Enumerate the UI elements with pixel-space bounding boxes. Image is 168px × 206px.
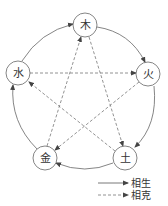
line-wood-earth — [89, 37, 123, 146]
legend: 相生 相克 — [98, 177, 151, 201]
node-metal: 金 — [33, 146, 57, 170]
line-metal-wood — [47, 37, 81, 146]
legend-dashed-label: 相克 — [131, 189, 151, 201]
node-label: 土 — [120, 152, 131, 165]
node-label: 火 — [143, 68, 154, 81]
node-label: 金 — [40, 151, 51, 165]
node-water: 水 — [6, 61, 30, 85]
node-fire: 火 — [136, 62, 160, 86]
arc-water-wood — [22, 24, 73, 61]
line-fire-metal — [55, 82, 139, 150]
five-elements-diagram: 木 火 土 金 水 相生 相克 — [0, 0, 168, 206]
generating-cycle — [13, 24, 155, 169]
node-earth: 土 — [113, 146, 137, 170]
overcoming-cycle — [29, 37, 139, 151]
line-earth-water — [29, 82, 115, 151]
arc-wood-fire — [97, 27, 145, 62]
arc-metal-water — [13, 85, 37, 149]
node-wood: 木 — [73, 13, 97, 37]
arc-earth-metal — [56, 163, 113, 169]
arc-fire-earth — [135, 86, 155, 147]
node-label: 木 — [80, 19, 91, 32]
node-label: 水 — [13, 67, 24, 80]
legend-solid-label: 相生 — [131, 177, 151, 189]
